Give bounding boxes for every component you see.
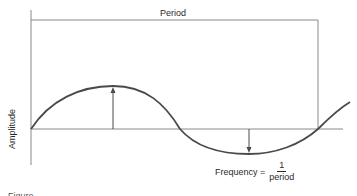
period-label: Period <box>160 8 186 18</box>
frequency-label: Frequency = <box>215 167 265 177</box>
sine-wave-diagram <box>0 0 357 196</box>
figure-caption: Figure <box>8 191 34 196</box>
frequency-fraction: 1 period <box>269 160 294 183</box>
fraction-numerator: 1 <box>277 160 286 172</box>
amplitude-label: Amplitude <box>7 103 17 155</box>
sine-wave-curve <box>31 86 350 154</box>
arrowhead-down-icon <box>247 147 252 153</box>
arrowhead-up-icon <box>111 87 116 93</box>
fraction-denominator: period <box>269 172 294 183</box>
frequency-formula: Frequency = 1 period <box>215 160 294 183</box>
